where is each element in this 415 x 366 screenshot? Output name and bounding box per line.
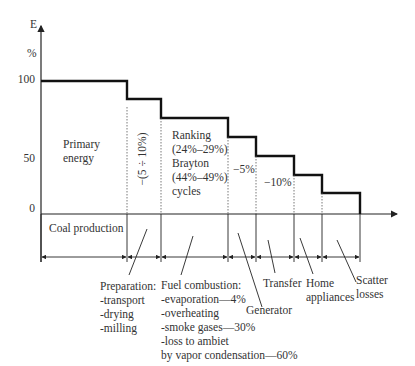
- home-appliances-line-1: Home: [306, 276, 355, 290]
- fuel-combustion-item: -smoke gases—30%: [161, 320, 298, 334]
- preparation-item: -drying: [100, 307, 156, 321]
- y-tick-50: 50: [5, 152, 35, 164]
- generator-callout: Generator: [246, 303, 292, 317]
- y-tick-100: 100: [5, 73, 35, 85]
- preparation-loss-label: −(5 ÷ 10%): [136, 129, 148, 189]
- coal-production-label: Coal production: [49, 221, 123, 235]
- fuel-combustion-callout: Fuel combustion: -evaporation—4% -overhe…: [161, 278, 298, 362]
- transfer-loss-label: −10%: [264, 175, 292, 189]
- cycles-line-1: Ranking: [172, 128, 228, 142]
- preparation-title: Preparation:: [100, 279, 156, 293]
- fuel-combustion-item: by vapor condensation—60%: [161, 348, 298, 362]
- scatter-losses-line-2: losses: [356, 287, 388, 301]
- cycles-line-2: (24%–29%): [172, 142, 228, 156]
- cycles-line-3: Brayton: [172, 156, 228, 170]
- preparation-item: -milling: [100, 321, 156, 335]
- transfer-callout: Transfer: [263, 276, 302, 290]
- y-axis-label: E: [30, 17, 37, 31]
- preparation-callout: Preparation: -transport -drying -milling: [100, 279, 156, 335]
- primary-energy-label: Primary energy: [63, 137, 100, 165]
- cycles-line-5: cycles: [172, 184, 228, 198]
- preparation-item: -transport: [100, 293, 156, 307]
- scatter-losses-line-1: Scatter: [356, 273, 388, 287]
- home-appliances-line-2: appliances: [306, 290, 355, 304]
- fuel-combustion-item: -loss to ambiet: [161, 334, 298, 348]
- home-appliances-callout: Home appliances: [306, 276, 355, 304]
- primary-line-2: energy: [63, 151, 100, 165]
- y-axis-unit: %: [27, 46, 37, 60]
- scatter-losses-callout: Scatter losses: [356, 273, 388, 301]
- cycles-line-4: (44%–49%): [172, 170, 228, 184]
- y-tick-0: 0: [5, 202, 35, 214]
- generator-loss-label: −5%: [233, 162, 255, 176]
- primary-line-1: Primary: [63, 137, 100, 151]
- cycles-label: Ranking (24%–29%) Brayton (44%–49%) cycl…: [172, 128, 228, 198]
